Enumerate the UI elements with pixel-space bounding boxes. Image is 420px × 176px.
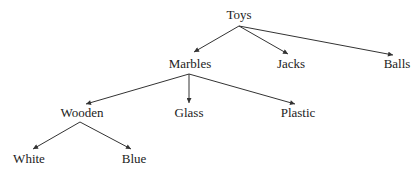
- edge-wooden-blue: [80, 122, 131, 149]
- edge-marbles-plastic: [189, 74, 295, 104]
- nodes: Toys Marbles Jacks Balls Wooden Glass Pl…: [13, 7, 410, 166]
- edge-marbles-wooden: [86, 74, 189, 104]
- node-plastic: Plastic: [281, 105, 316, 120]
- edges: [33, 26, 393, 149]
- node-white: White: [13, 151, 45, 166]
- node-wooden: Wooden: [61, 105, 104, 120]
- tree-diagram: Toys Marbles Jacks Balls Wooden Glass Pl…: [0, 0, 420, 176]
- edge-toys-balls: [239, 26, 393, 55]
- node-marbles: Marbles: [169, 56, 212, 71]
- edge-wooden-white: [33, 122, 80, 149]
- node-blue: Blue: [122, 151, 147, 166]
- node-jacks: Jacks: [277, 56, 305, 71]
- node-balls: Balls: [384, 56, 411, 71]
- node-glass: Glass: [175, 105, 204, 120]
- edge-toys-marbles: [194, 26, 239, 52]
- node-toys: Toys: [226, 7, 251, 22]
